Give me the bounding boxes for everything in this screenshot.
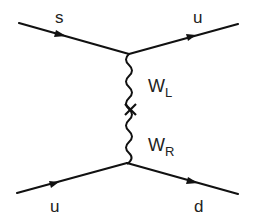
arrow-icon-u-top: [186, 34, 196, 41]
label-u-top: u: [193, 8, 202, 27]
label-w-left: WL: [148, 76, 172, 100]
fermion-line-d-out: [127, 163, 238, 194]
mixing-cross-icon: [125, 104, 136, 115]
fermion-line-u-in-bottom: [17, 163, 127, 193]
fermion-line-s-in: [19, 23, 129, 54]
label-u-bottom: u: [50, 197, 59, 216]
arrow-icon-s: [54, 30, 66, 37]
label-w-right: WR: [148, 135, 174, 159]
arrow-icon-u-bottom: [49, 181, 59, 188]
fermion-line-u-out-top: [129, 24, 238, 54]
feynman-diagram: s u u d WL WR: [0, 0, 253, 216]
arrow-icon-d: [186, 177, 198, 184]
label-s: s: [55, 8, 64, 27]
label-d: d: [194, 197, 203, 216]
